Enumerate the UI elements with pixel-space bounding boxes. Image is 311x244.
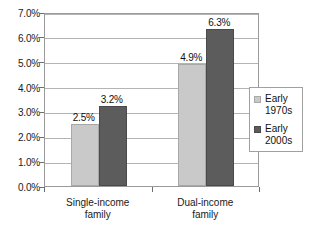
y-tick-label: 7.0% [18,8,40,19]
legend-entry: Early 1970s [254,93,298,117]
x-tick-mark [259,187,260,192]
y-tick-label: 6.0% [18,32,40,43]
y-tick-label: 4.0% [18,82,40,93]
legend-entry: Early 2000s [254,123,298,147]
dark-gray-swatch [254,126,261,133]
bar-value-label: 6.3% [199,17,239,28]
chart-legend: Early 1970sEarly 2000s [249,87,303,152]
y-tick-label: 3.0% [18,107,40,118]
plot-area [44,13,259,187]
bar-value-label: 2.5% [64,112,104,123]
x-tick-label-line: family [38,209,158,221]
x-tick-label-line: Dual-income [145,197,265,209]
bar [178,64,206,186]
x-tick-mark [152,187,153,192]
legend-label: Early 1970s [265,93,292,117]
light-gray-swatch [254,96,261,103]
x-tick-label-line: family [145,209,265,221]
y-axis: 7.0%6.0%5.0%4.0%3.0%2.0%1.0%0.0% [0,13,40,187]
legend-label: Early 2000s [265,123,292,147]
x-tick-label-line: Single-income [38,197,158,209]
x-tick-label: Dual-incomefamily [145,197,265,221]
y-tick-label: 2.0% [18,132,40,143]
y-tick-label: 0.0% [18,182,40,193]
bar-value-label: 4.9% [171,52,211,63]
bar-value-label: 3.2% [92,94,132,105]
x-tick-label: Single-incomefamily [38,197,158,221]
bar [71,124,99,186]
bar-chart: 7.0%6.0%5.0%4.0%3.0%2.0%1.0%0.0% Single-… [0,0,311,244]
gridline [45,14,258,15]
x-tick-mark [44,187,45,192]
y-tick-label: 5.0% [18,57,40,68]
y-tick-label: 1.0% [18,157,40,168]
